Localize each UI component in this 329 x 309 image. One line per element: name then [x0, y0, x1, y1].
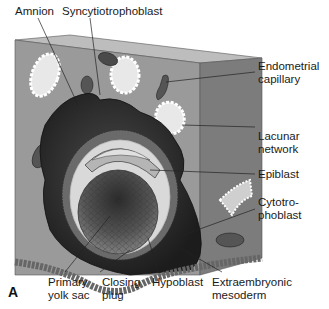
label-line-1: Extraembryonic [212, 276, 292, 289]
label-line-1: Primary [48, 276, 90, 289]
label-line-1: Endometrial [258, 60, 319, 73]
label-epiblast: Epiblast [258, 168, 299, 181]
label-amnion: Amnion [15, 5, 54, 18]
label-cytotrophoblast: Cytotro- phoblast [258, 196, 301, 222]
label-line-1: Cytotro- [258, 196, 301, 209]
label-line-2: phoblast [258, 209, 301, 222]
label-endometrial-capillary: Endometrial capillary [258, 60, 319, 86]
label-line-2: yolk sac [48, 289, 90, 302]
label-line-2: mesoderm [212, 289, 292, 302]
label-primary-yolk-sac: Primary yolk sac [48, 276, 90, 302]
label-syncytiotrophoblast: Syncytiotrophoblast [62, 5, 162, 18]
label-line-1: Closing [102, 276, 140, 289]
label-hypoblast: Hypoblast [152, 276, 203, 289]
label-line-2: network [258, 143, 300, 156]
label-closing-plug: Closing plug [102, 276, 140, 302]
label-line-2: capillary [258, 73, 319, 86]
label-line-2: plug [102, 289, 140, 302]
label-extraembryonic-mesoderm: Extraembryonic mesoderm [212, 276, 292, 302]
panel-letter: A [8, 284, 18, 300]
label-lacunar-network: Lacunar network [258, 130, 300, 156]
label-line-1: Lacunar [258, 130, 300, 143]
